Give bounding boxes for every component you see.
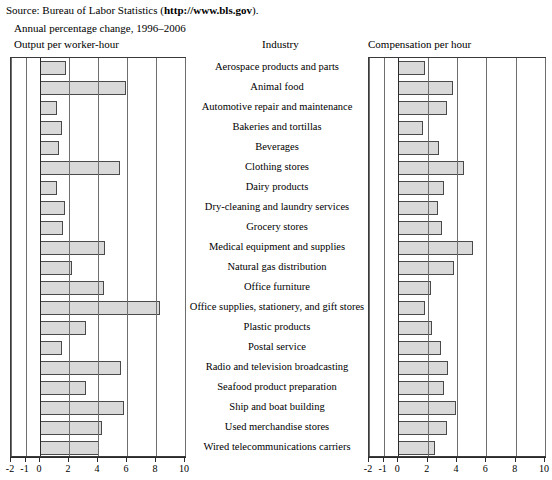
chart-subtitle: Annual percentage change, 1996–2006 — [14, 22, 186, 34]
industry-label: Animal food — [188, 77, 366, 97]
source-url: http://www.bls.gov — [164, 4, 252, 16]
bar-compensation-14[interactable] — [398, 341, 441, 355]
bar-output-15[interactable] — [40, 361, 121, 375]
chart-compensation-per-hour — [368, 57, 546, 457]
bar-output-6[interactable] — [40, 181, 57, 195]
axis-tick-label-4: 4 — [446, 463, 466, 474]
bar-compensation-10[interactable] — [398, 261, 454, 275]
axis-tick-label-2: 2 — [417, 463, 437, 474]
axis-tick-label-10: 10 — [174, 463, 194, 474]
bar-output-4[interactable] — [40, 141, 59, 155]
axis-line — [368, 457, 546, 458]
gridline-10 — [185, 58, 186, 456]
axis-tick-label-0: 0 — [29, 463, 49, 474]
industry-label: Natural gas distribution — [188, 257, 366, 277]
left-panel-title: Output per worker-hour — [14, 38, 119, 50]
bar-compensation-18[interactable] — [398, 421, 446, 435]
axis-line — [10, 457, 186, 458]
bar-compensation-2[interactable] — [398, 101, 446, 115]
zero-line — [40, 58, 41, 456]
axis-tick-0 — [39, 457, 40, 462]
axis-tick-8 — [155, 457, 156, 462]
bar-output-14[interactable] — [40, 341, 62, 355]
industry-label: Grocery stores — [188, 217, 366, 237]
source-line: Source: Bureau of Labor Statistics (http… — [6, 4, 258, 16]
axis-tick-label-8: 8 — [505, 463, 525, 474]
axis-tick-label-6: 6 — [475, 463, 495, 474]
gridline-2 — [69, 58, 70, 456]
industry-label: Plastic products — [188, 317, 366, 337]
bar-compensation-0[interactable] — [398, 61, 424, 75]
bar-compensation-9[interactable] — [398, 241, 473, 255]
gridline-8 — [156, 58, 157, 456]
bar-output-16[interactable] — [40, 381, 86, 395]
bar-output-9[interactable] — [40, 241, 105, 255]
axis-tick--2 — [10, 457, 11, 462]
axis-tick-label-8: 8 — [145, 463, 165, 474]
bar-output-10[interactable] — [40, 261, 72, 275]
industry-label: Dry-cleaning and laundry services — [188, 197, 366, 217]
bar-compensation-11[interactable] — [398, 281, 430, 295]
axis-tick-label-2: 2 — [58, 463, 78, 474]
bar-compensation-6[interactable] — [398, 181, 443, 195]
bar-output-3[interactable] — [40, 121, 62, 135]
bar-output-0[interactable] — [40, 61, 66, 75]
industry-label: Postal service — [188, 337, 366, 357]
bar-compensation-16[interactable] — [398, 381, 443, 395]
bar-compensation-19[interactable] — [398, 441, 435, 455]
industry-label: Radio and television broadcasting — [188, 357, 366, 377]
industry-label: Seafood product preparation — [188, 377, 366, 397]
zero-line — [398, 58, 399, 456]
gridline-2 — [428, 58, 429, 456]
axis-tick-4 — [97, 457, 98, 462]
bar-output-18[interactable] — [40, 421, 102, 435]
bar-output-2[interactable] — [40, 101, 57, 115]
gridline--2 — [369, 58, 370, 456]
industry-label-column: Aerospace products and partsAnimal foodA… — [188, 57, 366, 457]
x-axis-right: -2-10246810 — [368, 457, 546, 479]
bar-compensation-4[interactable] — [398, 141, 439, 155]
axis-tick--2 — [368, 457, 369, 462]
x-axis-left: -2-10246810 — [10, 457, 186, 479]
axis-tick-0 — [397, 457, 398, 462]
industry-label: Used merchandise stores — [188, 417, 366, 437]
axis-tick-label-6: 6 — [116, 463, 136, 474]
bar-compensation-5[interactable] — [398, 161, 464, 175]
industry-label: Beverages — [188, 137, 366, 157]
bar-output-1[interactable] — [40, 81, 126, 95]
right-panel-title: Compensation per hour — [368, 38, 471, 50]
axis-tick-10 — [544, 457, 545, 462]
bar-compensation-12[interactable] — [398, 301, 424, 315]
source-suffix: ). — [252, 4, 258, 16]
axis-tick-6 — [126, 457, 127, 462]
bar-compensation-8[interactable] — [398, 221, 442, 235]
bar-output-17[interactable] — [40, 401, 124, 415]
bar-compensation-1[interactable] — [398, 81, 452, 95]
industry-label: Medical equipment and supplies — [188, 237, 366, 257]
bar-output-11[interactable] — [40, 281, 104, 295]
bar-compensation-15[interactable] — [398, 361, 448, 375]
axis-tick-6 — [485, 457, 486, 462]
bar-compensation-3[interactable] — [398, 121, 423, 135]
industry-label: Dairy products — [188, 177, 366, 197]
bar-output-7[interactable] — [40, 201, 65, 215]
gridline-6 — [127, 58, 128, 456]
industry-label: Clothing stores — [188, 157, 366, 177]
gridline-8 — [516, 58, 517, 456]
industry-label: Ship and boat building — [188, 397, 366, 417]
gridline-10 — [545, 58, 546, 456]
industry-label: Wired telecommunications carriers — [188, 437, 366, 457]
bar-compensation-7[interactable] — [398, 201, 438, 215]
axis-tick-label-10: 10 — [534, 463, 552, 474]
bar-output-8[interactable] — [40, 221, 63, 235]
bar-output-12[interactable] — [40, 301, 160, 315]
axis-tick-label-0: 0 — [387, 463, 407, 474]
industry-label: Office furniture — [188, 277, 366, 297]
axis-tick-2 — [427, 457, 428, 462]
center-column-title: Industry — [262, 38, 299, 50]
bar-output-13[interactable] — [40, 321, 86, 335]
axis-tick-label-4: 4 — [87, 463, 107, 474]
bar-output-5[interactable] — [40, 161, 120, 175]
axis-tick--1 — [383, 457, 384, 462]
gridline--1 — [26, 58, 27, 456]
